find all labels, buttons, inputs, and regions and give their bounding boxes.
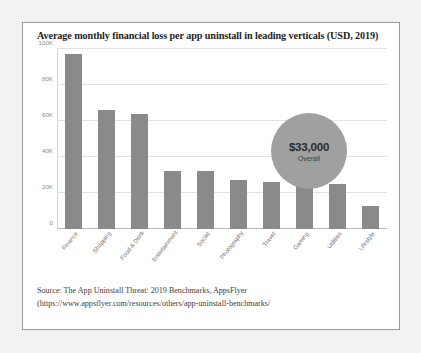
bar-photography: Photography — [230, 180, 247, 229]
x-tick-label-0: Finance — [61, 231, 79, 252]
bar-entertainment: Entertainment — [164, 171, 181, 229]
x-tick-label-2: Food & Drink — [120, 230, 146, 261]
overall-average-bubble: $33,000 Overall — [271, 113, 347, 189]
source-line-2: (https://www.appsflyer.com/resources/oth… — [37, 298, 387, 311]
y-tick-label-100k: 100K — [39, 39, 53, 46]
bar-finance: Finance — [65, 54, 82, 229]
x-tick-label-5: Photography — [219, 230, 245, 261]
bar-social: Social — [197, 171, 214, 229]
x-tick-label-6: Travel — [262, 231, 277, 248]
x-tick-label-8: Utilities — [327, 231, 344, 250]
y-tick-label-60k: 60K — [42, 111, 53, 118]
chart-title: Average monthly financial loss per app u… — [37, 29, 389, 42]
bar-travel: Travel — [263, 182, 280, 229]
bar-utilities: Utilities — [329, 184, 346, 229]
bar-food-drink: Food & Drink — [131, 114, 148, 229]
source-line-1: Source: The App Uninstall Threat: 2019 B… — [37, 285, 387, 298]
x-tick-label-1: Shopping — [92, 230, 112, 254]
bar-gaming: Gaming — [296, 182, 313, 229]
y-tick-label-40k: 40K — [42, 147, 53, 154]
x-tick-label-9: Lifestyle — [358, 231, 376, 252]
y-tick-label-80k: 80K — [42, 75, 53, 82]
x-tick-label-4: Social — [196, 231, 211, 248]
x-tick-label-3: Entertainment — [151, 230, 179, 263]
bar-lifestyle: Lifestyle — [362, 206, 379, 229]
y-tick-label-20k: 20K — [42, 183, 53, 190]
bar-shopping: Shopping — [98, 110, 115, 229]
source-note: Source: The App Uninstall Threat: 2019 B… — [37, 285, 387, 310]
chart-figure-frame: Average monthly financial loss per app u… — [22, 22, 400, 330]
x-tick-label-7: Gaming — [293, 231, 311, 251]
y-tick-label-0: 0 — [50, 219, 53, 226]
overall-average-value: $33,000 — [289, 141, 329, 153]
overall-average-caption: Overall — [298, 155, 320, 162]
